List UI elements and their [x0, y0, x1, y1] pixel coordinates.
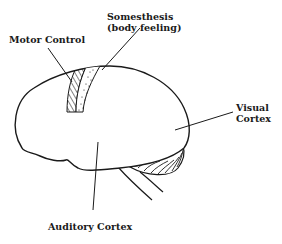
somesthesis-leader-line	[102, 28, 140, 70]
somesthesis-label-subtitle: (body feeling)	[107, 22, 181, 33]
motor-control-label: Motor Control	[9, 34, 85, 45]
somesthesis-label-title: Somesthesis	[107, 11, 181, 22]
visual-cortex-label: Visual Cortex	[236, 102, 271, 124]
cerebrum-outline	[15, 66, 189, 170]
auditory-cortex-label: Auditory Cortex	[48, 221, 132, 232]
visual-cortex-label-line1: Visual	[236, 102, 271, 113]
somesthesis-label: Somesthesis (body feeling)	[107, 11, 181, 33]
visual-cortex-label-line2: Cortex	[236, 113, 271, 124]
auditory-cortex-label-text: Auditory Cortex	[48, 221, 132, 232]
motor-control-label-text: Motor Control	[9, 34, 85, 45]
